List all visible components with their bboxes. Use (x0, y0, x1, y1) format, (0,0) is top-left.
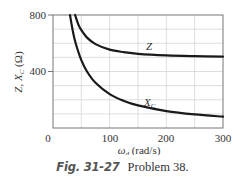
y-axis-label: Z, XC (Ω) (12, 51, 26, 93)
figure-caption: Fig. 31-27Problem 38. (0, 157, 245, 175)
x-tick-300: 300 (215, 132, 232, 144)
x-tick-0: 0 (45, 132, 51, 144)
grid-lines (53, 15, 223, 128)
x-tick-100: 100 (102, 132, 119, 144)
xc-curve-label: XC (143, 96, 156, 110)
y-tick-400: 400 (30, 65, 47, 77)
caption-text: Problem 38. (128, 160, 189, 174)
y-tick-800: 800 (30, 9, 47, 21)
x-axis-label: ωd (rad/s) (118, 144, 161, 155)
impedance-chart: 800 400 0 100 200 300 ωd (rad/s) Z, XC (… (0, 0, 245, 155)
z-curve-label: Z (146, 40, 153, 52)
x-tick-200: 200 (158, 132, 175, 144)
figure-number: Fig. 31-27 (56, 160, 119, 174)
